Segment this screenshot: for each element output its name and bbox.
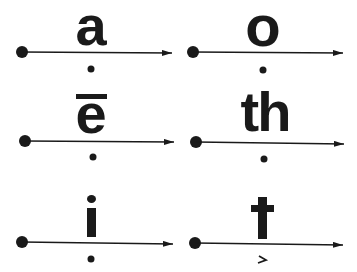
i-stem: [87, 208, 96, 237]
below-dot: [90, 154, 97, 161]
below-dot: [88, 66, 95, 73]
cell-t: [189, 237, 343, 263]
symbol-t: [251, 197, 275, 239]
arrow-line: [22, 242, 173, 244]
symbol-o: o: [238, 0, 288, 55]
below-dot: [88, 256, 95, 263]
arrow-line: [195, 243, 343, 245]
i-dot: [87, 195, 96, 203]
below-dot: [261, 156, 268, 163]
below-dot: [260, 67, 267, 74]
cell-i: [16, 236, 173, 263]
below-hook-mark: [258, 256, 266, 263]
arrow-diagram: [0, 0, 357, 272]
t-stem: [258, 197, 267, 239]
symbol-th: th: [230, 84, 300, 140]
symbol-i: [86, 195, 96, 237]
t-bar: [251, 205, 274, 212]
symbol-a: a: [66, 0, 116, 54]
symbol-e-macron: e: [66, 86, 116, 142]
